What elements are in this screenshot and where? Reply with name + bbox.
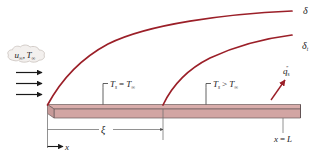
surface-heat-flux-label: qs″	[283, 65, 290, 77]
flat-plate	[48, 105, 301, 119]
unheated-region-temp-label: Ts=T∞	[110, 79, 135, 90]
thermal-boundary-layer-curve	[163, 35, 292, 105]
plate-front-face	[54, 109, 301, 118]
thermal-boundary-layer-label: δt	[302, 40, 309, 52]
boundary-layer-figure: δ δt u∞,T∞	[0, 0, 327, 157]
x-axis-group: x	[48, 142, 70, 152]
freestream-conditions-callout: u∞,T∞	[8, 45, 45, 62]
freestream-flow-arrows	[16, 73, 42, 95]
velocity-boundary-layer-curve	[48, 11, 293, 105]
plate-top-face	[48, 105, 301, 110]
boundary-layer-curves	[48, 11, 293, 105]
surface-heat-flux-arrow	[271, 80, 285, 100]
velocity-boundary-layer-label: δ	[303, 5, 308, 16]
figure-canvas: δ δt u∞,T∞	[0, 0, 327, 157]
heated-region-temp-label: Ts>T∞	[213, 79, 238, 90]
x-axis-label: x	[64, 142, 69, 152]
surface-heat-flux-arrow-group	[271, 80, 285, 100]
plate-end-label: x=L	[273, 134, 292, 144]
unheated-length-label: ξ	[101, 124, 106, 136]
heated-region-leader	[206, 84, 211, 88]
unheated-region-leader	[103, 84, 108, 88]
